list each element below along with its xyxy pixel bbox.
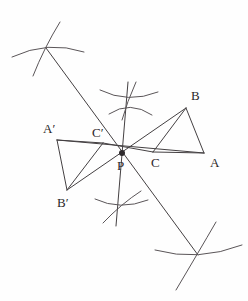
arc-um-1 xyxy=(100,90,158,98)
arc-um-3 xyxy=(122,82,136,120)
point-label-A: A xyxy=(210,155,220,170)
arc-lr-2 xyxy=(176,222,216,290)
centre-point-dot xyxy=(119,150,125,156)
arc-lm-1 xyxy=(95,199,148,205)
arc-ul-1 xyxy=(12,47,84,57)
point-label-Bprime: B′ xyxy=(57,195,69,210)
point-label-C: C xyxy=(151,155,160,170)
point-label-Cprime: C′ xyxy=(92,125,104,140)
geometry-figure: ABCPA′B′C′ xyxy=(0,0,248,301)
side-ApBp xyxy=(57,140,67,190)
side-AB xyxy=(186,108,204,153)
point-labels-group: ABCPA′B′C′ xyxy=(43,88,220,210)
side-BpCp xyxy=(67,143,103,190)
compass-arcs-group xyxy=(12,22,242,290)
geometry-diagram-canvas: ABCPA′B′C′ xyxy=(0,0,248,301)
ray-B-to-Bprime xyxy=(67,108,186,190)
point-label-P: P xyxy=(117,158,124,173)
vertex-dots-group xyxy=(119,150,125,156)
arc-lm-2 xyxy=(103,191,141,223)
arc-lr-1 xyxy=(155,245,242,255)
side-BC xyxy=(153,108,186,152)
point-label-B: B xyxy=(191,88,200,103)
arc-um-2 xyxy=(109,107,152,115)
point-label-Aprime: A′ xyxy=(43,121,55,136)
segments-group xyxy=(46,48,204,255)
